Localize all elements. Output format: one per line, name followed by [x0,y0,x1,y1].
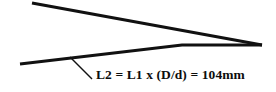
leader-line [70,57,92,79]
lower-ray-line [20,45,262,64]
upper-ray-line [32,3,262,45]
annotation-label: L2 = L1 x (D/d) = 104mm [96,67,245,83]
figure-root: L2 = L1 x (D/d) = 104mm [0,0,276,92]
